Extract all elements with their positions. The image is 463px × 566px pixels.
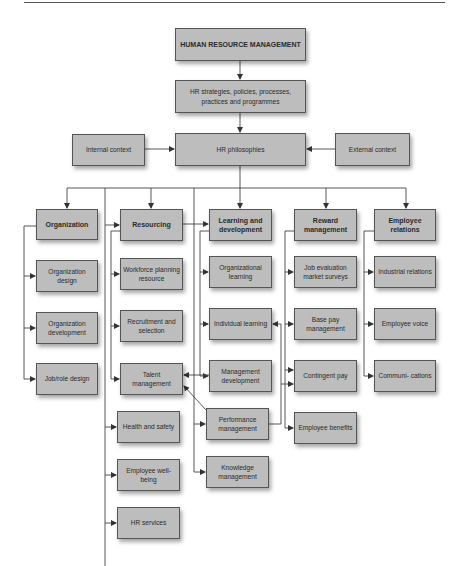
item-employee-benefits: Employee benefits: [294, 412, 357, 444]
hr-strategies-box: HR strategies, policies, processes, prac…: [175, 80, 306, 113]
item-employee-well-being: Employee well-being: [117, 459, 180, 491]
item-communications: Communi- cations: [374, 360, 436, 392]
area-reward-management: Reward management: [294, 209, 357, 241]
item-industrial-relations: Industrial relations: [374, 256, 436, 288]
area-learning-development: Learning and development: [209, 209, 272, 241]
external-context-box: External context: [335, 133, 410, 166]
internal-context-box: Internal context: [72, 134, 145, 166]
item-knowledge-management: Knowledge management: [206, 456, 269, 488]
item-management-development: Management development: [209, 360, 272, 392]
item-contingent-pay: Contingent pay: [294, 360, 357, 392]
hrm-box: HUMAN RESOURCE MANAGEMENT: [175, 28, 306, 61]
area-resourcing: Resourcing: [120, 209, 183, 241]
area-organization: Organization: [36, 209, 98, 240]
item-health-safety: Health and safety: [117, 411, 180, 443]
item-organization-design: Organization design: [36, 260, 98, 292]
area-employee-relations: Employee relations: [374, 209, 436, 241]
item-talent-management: Talent management: [120, 363, 183, 395]
item-performance-management: Performance management: [206, 408, 269, 440]
item-hr-services: HR services: [117, 507, 180, 539]
item-recruitment-selection: Recruitment and selection: [120, 310, 183, 342]
item-job-role-design: Job/role design: [36, 363, 98, 395]
item-base-pay: Base pay management: [294, 308, 357, 340]
hr-philosophies-box: HR philosophies: [175, 133, 306, 166]
item-workforce-planning: Workforce planning resource: [120, 258, 183, 290]
item-employee-voice: Employee voice: [374, 308, 436, 340]
item-individual-learning: Individual learning: [209, 308, 272, 340]
item-job-evaluation: Job evaluation market surveys: [294, 256, 357, 288]
item-organization-development: Organization development: [36, 312, 98, 344]
item-organizational-learning: Organizational learning: [209, 256, 272, 288]
